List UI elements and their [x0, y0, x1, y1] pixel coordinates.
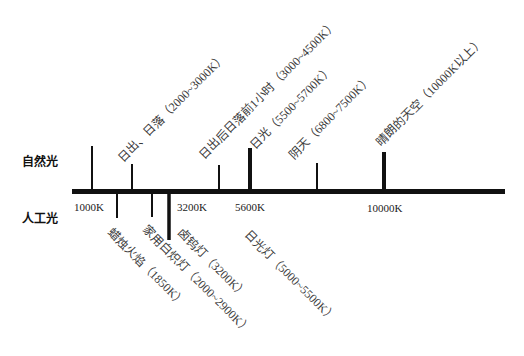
artificial-light-row-label: 人工光 — [22, 213, 58, 225]
timeline-lines — [0, 0, 524, 356]
color-temperature-diagram: 自然光 人工光 1000K 3200K 5600K 10000K 日出、日落（2… — [0, 0, 524, 356]
natural-light-row-label: 自然光 — [22, 156, 58, 168]
axis-label-3200k: 3200K — [177, 202, 207, 213]
axis-label-1000k: 1000K — [74, 202, 104, 213]
axis-label-10000k: 10000K — [367, 203, 402, 214]
axis-label-5600k: 5600K — [235, 202, 265, 213]
